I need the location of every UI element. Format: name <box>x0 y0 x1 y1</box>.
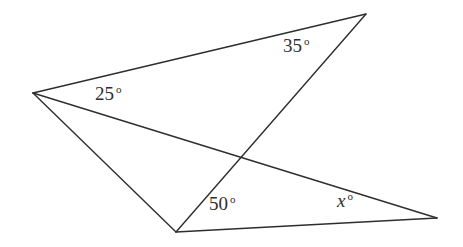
degree-symbol-x: o <box>347 190 353 202</box>
angle-label-25: 25o <box>95 84 122 103</box>
angle-value-50: 50 <box>209 193 228 214</box>
angle-label-35: 35o <box>283 36 310 55</box>
degree-symbol-50: o <box>230 193 236 205</box>
angle-value-35: 35 <box>283 35 302 56</box>
segment-left-to-bottom <box>33 93 176 232</box>
degree-symbol-25: o <box>116 83 122 95</box>
degree-symbol-35: o <box>304 35 310 47</box>
segment-bottom-to-right <box>176 218 437 232</box>
segment-left-to-top-right <box>33 14 366 93</box>
angle-label-50: 50o <box>209 194 236 213</box>
angle-value-x: x <box>337 190 345 211</box>
geometry-figure: 25o 35o 50o xo <box>0 0 463 247</box>
angle-value-25: 25 <box>95 83 114 104</box>
angle-label-x: xo <box>337 191 353 210</box>
